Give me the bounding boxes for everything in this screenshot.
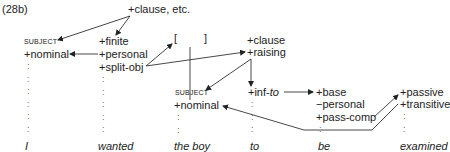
edge-root-to-finite [116,16,130,35]
diagram-edges [0,0,450,152]
edge-raising-to-subject-boy [206,59,251,90]
edge-transitive-to-nominal-boy [223,104,398,130]
edge-splitobj-to-raising [146,52,245,66]
edge-root-to-subject [58,16,130,40]
edge-passcomp-to-passive [374,95,398,117]
